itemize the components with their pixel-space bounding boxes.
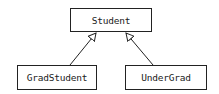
class-box-undergrad: UnderGrad — [125, 65, 207, 90]
class-diagram: Student GradStudent UnderGrad — [0, 0, 219, 94]
class-name-undergrad: UnderGrad — [141, 72, 191, 83]
edge-gradstudent-to-student — [70, 33, 96, 65]
class-name-gradstudent: GradStudent — [27, 72, 88, 83]
class-box-gradstudent: GradStudent — [17, 65, 97, 90]
edge-undergrad-to-student — [126, 33, 153, 65]
class-box-student: Student — [70, 8, 152, 32]
class-name-student: Student — [92, 15, 131, 26]
